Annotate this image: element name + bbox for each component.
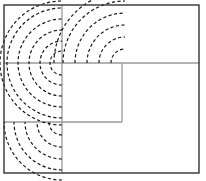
figure-container — [0, 0, 206, 181]
geometric-diagram — [0, 0, 206, 181]
figure-background — [0, 0, 206, 181]
